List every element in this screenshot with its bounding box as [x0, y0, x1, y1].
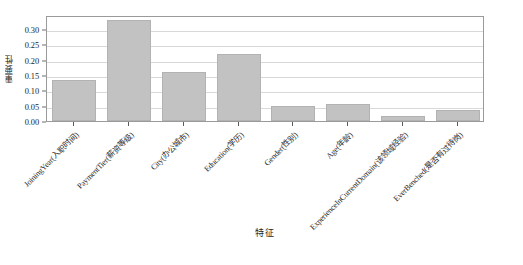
- x-axis-ticks: [46, 122, 484, 127]
- bar: [271, 106, 315, 121]
- x-tick-mark: [128, 122, 129, 126]
- x-tick-label: Age(年龄): [8, 129, 355, 265]
- plot-area: [46, 16, 484, 122]
- x-tick-label: EverBenched(是否有过待岗): [117, 129, 464, 265]
- x-tick-mark: [347, 122, 348, 126]
- y-tick-label: 0.10: [25, 87, 39, 96]
- bar: [52, 80, 96, 121]
- x-tick-label: ExperienceInCurrentDomain(该领域经验): [62, 129, 409, 265]
- x-tick-mark: [402, 122, 403, 126]
- x-tick-mark: [292, 122, 293, 126]
- bar: [326, 104, 370, 121]
- y-axis-ticks: 0.000.050.100.150.200.250.30: [0, 16, 46, 122]
- bar: [217, 54, 261, 121]
- bar: [107, 20, 151, 121]
- x-tick-label: City(办公城市): [0, 129, 191, 265]
- bars-layer: [47, 17, 483, 121]
- y-tick-label: 0.25: [25, 41, 39, 50]
- x-axis-title: 特征: [46, 226, 484, 239]
- x-tick-mark: [73, 122, 74, 126]
- bar: [162, 72, 206, 121]
- x-tick-label: Education(学历): [0, 129, 245, 265]
- bar: [381, 116, 425, 121]
- y-tick-label: 0.20: [25, 56, 39, 65]
- y-tick-label: 0.05: [25, 102, 39, 111]
- bar: [436, 110, 480, 121]
- x-tick-label: JoiningYear(入职时间): [0, 129, 81, 265]
- y-tick-label: 0.00: [25, 118, 39, 127]
- x-tick-mark: [183, 122, 184, 126]
- feature-importance-chart: 重要性 0.000.050.100.150.200.250.30 Joining…: [0, 0, 523, 265]
- x-tick-mark: [238, 122, 239, 126]
- y-tick-label: 0.30: [25, 25, 39, 34]
- x-tick-mark: [457, 122, 458, 126]
- x-tick-label: Gender(性别): [0, 129, 300, 265]
- x-tick-label: PaymentTier(薪资等级): [0, 129, 136, 265]
- y-tick-label: 0.15: [25, 71, 39, 80]
